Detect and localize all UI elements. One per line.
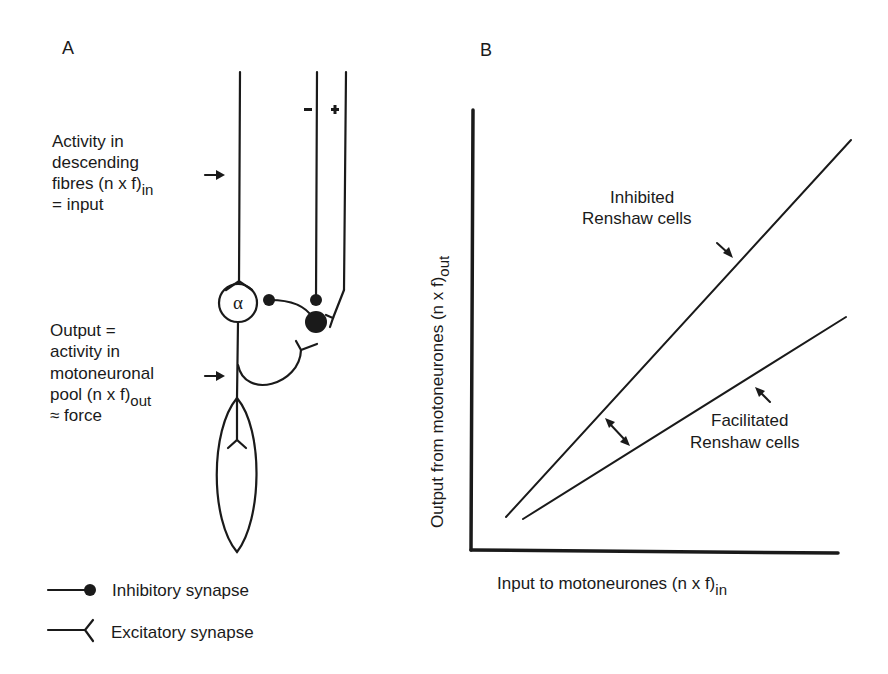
legend-inhibitory-label: Inhibitory synapse [112,580,249,601]
legend-excitatory-label: Excitatory synapse [111,622,254,643]
facilitated-renshaw-line [523,317,846,519]
x-axis-label: Input to motoneurones (n x f)in [497,573,727,594]
motor-axon [237,322,238,398]
gain-change-arrow [610,424,625,440]
inhibitory-synapse-icon [310,294,322,306]
inhibited-label-line-1: Inhibited [610,187,674,208]
renshaw-axon [270,300,313,318]
excitatory-synapse-icon [85,620,93,641]
output-arrow-icon [216,371,225,381]
y-axis-label: Output from motoneurones (n x f)out [428,256,448,528]
excitatory-synapse-icon [296,341,317,350]
inhibitory-synapse-icon [263,294,275,306]
neuromuscular-junction-icon [228,440,246,448]
facilitated-label-line-1: Facilitated [711,410,788,431]
input-arrow-icon [216,170,225,180]
renshaw-cell [305,311,327,333]
x-axis [471,550,838,553]
inhibited-renshaw-line [506,140,851,517]
facilitatory-descending-fibre [344,72,346,290]
facilitated-label-line-2: Renshaw cells [690,432,800,453]
inhibited-label-line-2: Renshaw cells [582,208,692,229]
inhibitory-synapse-icon [84,584,96,596]
recurrent-collateral [238,350,301,385]
excitatory-synapse-icon [326,315,333,327]
inhibitory-descending-fibre [316,72,317,300]
y-axis [471,110,473,550]
descending-fibre [239,72,240,283]
minus-sign-icon [304,108,312,111]
alpha-symbol: α [233,292,243,313]
chart-axes [471,110,838,553]
